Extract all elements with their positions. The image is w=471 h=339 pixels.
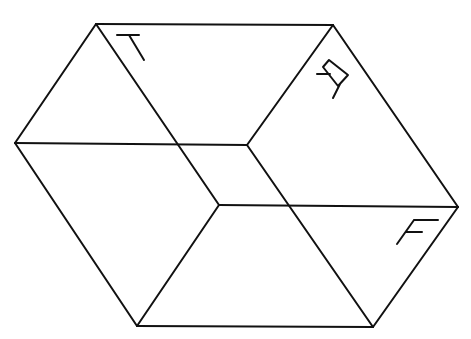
edge-inner-lower-diagonal	[137, 205, 219, 326]
edge-outer-lower-right	[373, 207, 458, 327]
edge-outer-upper-right	[333, 25, 458, 207]
edge-outer-upper-left	[15, 24, 96, 143]
edge-inner-long-diagonal-a	[96, 24, 219, 205]
edge-inner-lower-horizontal	[219, 205, 458, 207]
cube-figure	[0, 0, 471, 339]
edge-inner-upper-horizontal	[15, 143, 247, 145]
figure-edges	[15, 24, 458, 327]
label-f-glyph	[397, 220, 438, 244]
edge-inner-upper-diagonal	[247, 25, 333, 145]
edge-outer-bottom	[137, 326, 373, 327]
edge-inner-long-diagonal-b	[247, 145, 373, 327]
label-a-glyph	[317, 60, 348, 98]
label-t-glyph	[117, 35, 144, 60]
edge-outer-lower-left	[15, 143, 137, 326]
diagram-canvas: T A F	[0, 0, 471, 339]
edge-outer-top	[96, 24, 333, 25]
